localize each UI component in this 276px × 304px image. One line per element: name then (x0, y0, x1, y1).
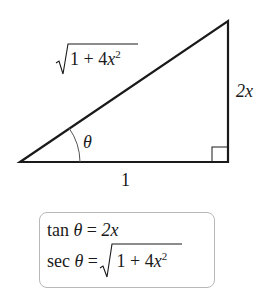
tan-formula: tan θ = 2x (47, 220, 119, 241)
adjacent-side-label: 1 (121, 171, 130, 189)
triangle (20, 21, 228, 162)
angle-label: θ (83, 133, 92, 151)
tan-lhs: tan θ (47, 220, 82, 240)
sec-lhs: sec θ (47, 251, 83, 271)
sec-formula: sec θ = 1 + 4x2 (47, 250, 167, 272)
hypotenuse-exponent: 2 (115, 48, 121, 60)
sec-exponent: 2 (162, 250, 168, 262)
tan-rhs: 2x (102, 220, 119, 240)
sec-equals: = (88, 251, 98, 271)
hypotenuse-radicand: 1 + 4x (70, 49, 115, 69)
tan-equals: = (87, 220, 97, 240)
opposite-side-label: 2x (236, 82, 253, 100)
right-angle-marker (212, 147, 228, 162)
hypotenuse-label: 1 + 4x2 (70, 49, 121, 68)
angle-arc (69, 128, 80, 162)
sec-radicand: 1 + 4x (116, 251, 161, 271)
